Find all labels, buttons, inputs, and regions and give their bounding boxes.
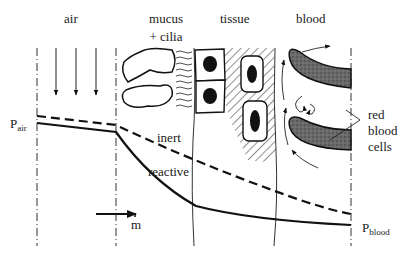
- flux-label: m: [131, 218, 141, 232]
- region-label-air: air: [64, 12, 78, 26]
- reactive-label: reactive: [148, 165, 189, 179]
- air-flow-arrows: [56, 48, 96, 95]
- flux-dot: [134, 215, 136, 217]
- rbc-label: red blood cells: [368, 107, 398, 155]
- p-air-label: Pair: [10, 117, 27, 135]
- p-blood-label: Pblood: [362, 221, 390, 239]
- rbc-label-line1: red: [368, 107, 398, 123]
- diagram-canvas: [0, 0, 410, 256]
- inert-label: inert: [157, 131, 181, 145]
- boundary-mucus-tissue: [192, 48, 195, 246]
- region-label-mucus-line1: mucus: [136, 12, 196, 26]
- region-label-mucus: mucus + cilia: [136, 12, 196, 44]
- cilia-waves: [176, 51, 192, 107]
- rbc-label-line3: cells: [368, 139, 398, 155]
- region-label-tissue: tissue: [220, 12, 250, 26]
- red-blood-cells: [289, 49, 351, 150]
- region-label-mucus-line2: + cilia: [136, 30, 196, 44]
- region-label-blood: blood: [296, 12, 326, 26]
- rbc-label-line2: blood: [368, 123, 398, 139]
- region-boundaries: [37, 48, 351, 246]
- mucus-blobs: [122, 48, 175, 107]
